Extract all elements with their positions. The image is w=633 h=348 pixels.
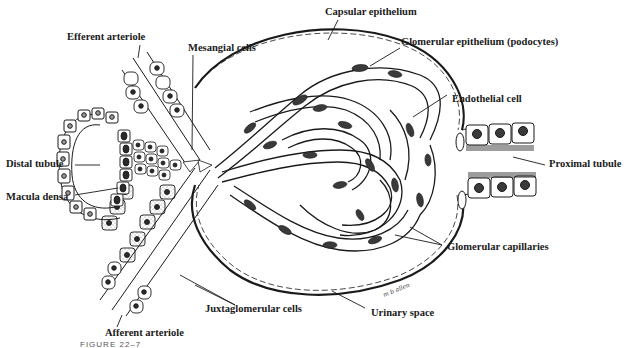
label-endothelial-cell: Endothelial cell bbox=[452, 93, 522, 105]
figure-caption: FIGURE 22–7 bbox=[80, 340, 141, 348]
label-distal-tubule: Distal tubule bbox=[6, 158, 63, 170]
mesangial-cell-cluster bbox=[133, 140, 212, 180]
proximal-tubule-structure bbox=[456, 123, 536, 209]
afferent-smooth-muscle-cells bbox=[102, 262, 151, 313]
label-macula-densa: Macula densa bbox=[6, 191, 68, 203]
label-efferent-arteriole: Efferent arteriole bbox=[67, 31, 145, 43]
label-glomerular-epithelium: Glomerular epithelium (podocytes) bbox=[401, 36, 558, 48]
label-juxtaglomerular-cells: Juxtaglomerular cells bbox=[205, 303, 302, 315]
label-afferent-arteriole: Afferent arteriole bbox=[105, 327, 184, 339]
endothelial-and-podocyte-nuclei bbox=[243, 64, 432, 248]
label-urinary-space: Urinary space bbox=[371, 307, 434, 319]
label-mesangial-cells: Mesangial cells bbox=[188, 42, 256, 54]
label-glomerular-capillaries: Glomerular capillaries bbox=[447, 241, 549, 253]
glomerular-capillary-loops bbox=[215, 68, 440, 251]
renal-corpuscle-illustration bbox=[0, 0, 633, 348]
label-proximal-tubule: Proximal tubule bbox=[549, 158, 621, 170]
label-capsular-epithelium: Capsular epithelium bbox=[325, 6, 417, 18]
